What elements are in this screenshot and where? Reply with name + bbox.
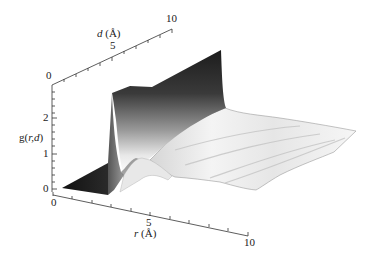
d-axis-label: d (Å) bbox=[97, 28, 121, 39]
z-tick-1: 1 bbox=[43, 148, 49, 159]
r-tick-10: 10 bbox=[244, 237, 255, 248]
r-tick-0: 0 bbox=[51, 197, 57, 208]
r-axis-label: r (Å) bbox=[134, 228, 156, 239]
z-axis bbox=[52, 85, 57, 192]
z-tick-2: 2 bbox=[43, 112, 49, 123]
z-axis-label: g(r,d) bbox=[19, 132, 43, 143]
d-tick-5: 5 bbox=[110, 40, 116, 51]
d-tick-0: 0 bbox=[46, 70, 52, 81]
z-tick-0: 0 bbox=[43, 183, 49, 194]
d-tick-10: 10 bbox=[166, 13, 177, 24]
zero-floor bbox=[62, 163, 108, 195]
surface-plot bbox=[0, 0, 376, 258]
